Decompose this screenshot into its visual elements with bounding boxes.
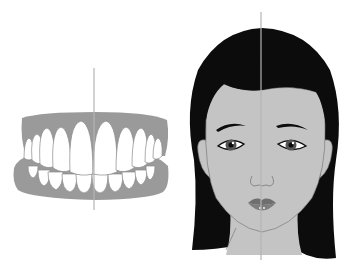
face-icon	[180, 0, 349, 266]
dental-arch-illustration	[0, 0, 180, 266]
teeth-icon	[0, 0, 180, 266]
face-illustration	[180, 0, 349, 266]
